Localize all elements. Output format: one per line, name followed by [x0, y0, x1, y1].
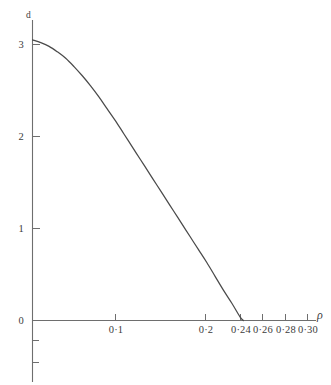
x-tick-label-0-1: 0·1	[109, 324, 124, 335]
chart-figure: d ρ 3 2 1 0 0·1 0·2 0·24 0·26 0·28 0·30	[0, 0, 331, 385]
x-tick-label-0-28: 0·28	[276, 324, 296, 335]
y-tick-label-1: 1	[8, 223, 24, 234]
y-axis-title: d	[26, 10, 31, 20]
x-tick-label-0-30: 0·30	[298, 324, 318, 335]
y-tick-label-0: 0	[8, 315, 24, 326]
x-tick-label-0-26: 0·26	[253, 324, 273, 335]
x-tick-label-0-2: 0·2	[199, 324, 214, 335]
data-curve-d	[33, 40, 244, 321]
y-axis-ticks	[33, 45, 41, 363]
y-tick-label-3: 3	[8, 39, 24, 50]
y-tick-label-2: 2	[8, 131, 24, 142]
x-axis-title: ρ	[317, 308, 323, 323]
x-axis-ticks	[116, 314, 308, 321]
x-tick-label-0-24: 0·24	[231, 324, 251, 335]
